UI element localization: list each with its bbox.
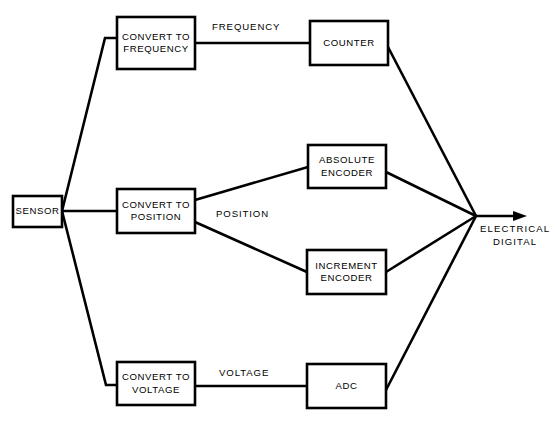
node-box-convert-voltage[interactable] [117, 362, 195, 405]
edge-label-position: POSITION [216, 208, 269, 221]
diagram-edges-layer [0, 0, 556, 427]
node-box-adc[interactable] [307, 364, 386, 408]
output-label-electrical-digital: ELECTRICAL DIGITAL [480, 222, 550, 248]
output-arrowhead-icon [513, 211, 527, 221]
edge-sensor-to-voltage [62, 211, 117, 385]
edge-adc-to-output [386, 216, 476, 390]
diagram-canvas: SENSOR CONVERT TO FREQUENCY COUNTER CONV… [0, 0, 556, 427]
node-box-convert-frequency[interactable] [117, 17, 195, 69]
edge-position-to-absolute [195, 167, 308, 200]
edge-label-voltage: VOLTAGE [219, 367, 269, 380]
node-box-counter[interactable] [310, 21, 388, 65]
edge-sensor-to-frequency [62, 38, 117, 211]
edge-absolute-encoder-to-output [386, 172, 476, 216]
node-box-sensor[interactable] [13, 196, 62, 227]
edge-label-frequency: FREQUENCY [212, 21, 280, 34]
node-box-absolute-encoder[interactable] [308, 145, 386, 188]
edge-counter-to-output [388, 47, 476, 216]
edge-position-to-increment [195, 222, 307, 272]
node-box-convert-position[interactable] [117, 189, 195, 233]
node-box-increment-encoder[interactable] [307, 250, 386, 294]
